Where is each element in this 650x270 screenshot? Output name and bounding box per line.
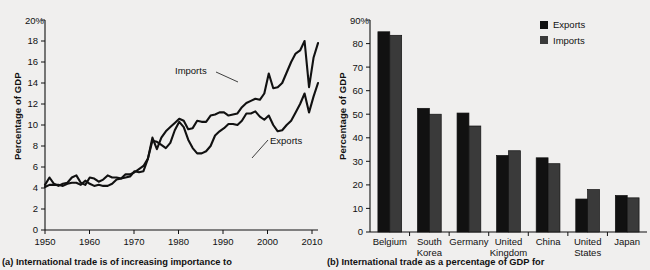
panel-b-bar-chart: Percentage of GDP 90% 80 70 60 50 40 30 … [325,0,650,270]
panel-a-xtick: 1980 [159,237,199,248]
imports-swatch-icon [540,36,548,44]
imports-line [45,41,318,187]
panel-b-legend: Exports Imports [540,20,585,51]
bar-exports-united-kingdom [497,155,509,232]
trade-figure: Percentage of GDP 20% 18 16 14 12 10 8 6… [0,0,650,270]
bar-imports-belgium [390,35,402,232]
legend-item-exports: Exports [540,20,585,30]
panel-a-caption: (a) International trade is of increasing… [2,257,232,268]
panel-a-xtick: 1950 [25,237,65,248]
bar-imports-china [548,164,560,232]
bar-imports-united-kingdom [509,151,521,232]
exports-swatch-icon [540,21,548,29]
panel-a-xtick: 2000 [248,237,288,248]
bar-group [378,32,639,232]
legend-label-imports: Imports [553,36,585,46]
bar-exports-belgium [378,32,390,232]
bar-exports-japan [615,195,627,232]
bar-imports-united-states [588,190,600,232]
legend-label-exports: Exports [553,20,585,30]
bar-imports-japan [627,198,639,232]
panel-a-xtick: 1970 [114,237,154,248]
imports-annotation: Imports [175,66,207,76]
panel-a-line-chart: Percentage of GDP 20% 18 16 14 12 10 8 6… [0,0,325,270]
bar-imports-south-korea [429,114,441,232]
panel-b-caption: (b) International trade as a percentage … [327,257,544,268]
legend-item-imports: Imports [540,36,585,46]
bar-exports-germany [457,113,469,232]
panel-b-plot [325,0,650,270]
bar-exports-china [536,158,548,232]
bar-exports-united-states [576,199,588,232]
panel-b-category-japan: Japan [601,237,650,248]
panel-a-xtick: 1960 [70,237,110,248]
exports-annotation: Exports [270,136,302,146]
bar-imports-germany [469,126,481,232]
bar-exports-south-korea [417,108,429,232]
panel-a-xtick: 1990 [203,237,243,248]
